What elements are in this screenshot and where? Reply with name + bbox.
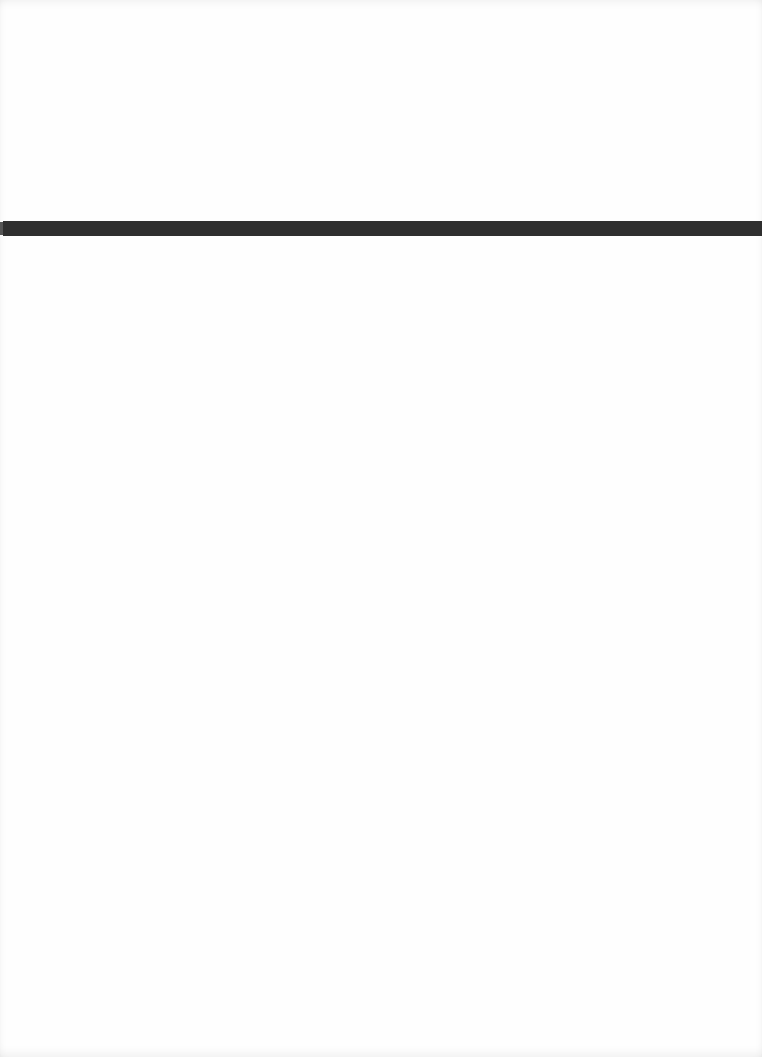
document-page xyxy=(0,0,762,1057)
horizontal-black-rule xyxy=(3,221,762,236)
